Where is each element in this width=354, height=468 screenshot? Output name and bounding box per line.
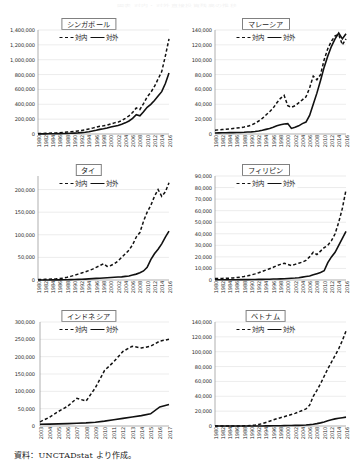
legend-item-inward: 対内 <box>236 33 264 42</box>
x-axis-labels: 1980198219841986198819901992199419961998… <box>38 135 169 161</box>
y-axis-tick-label: 120,000 <box>192 42 212 48</box>
x-axis-tick-label: 2008 <box>137 281 143 293</box>
x-axis-tick-label: 1990 <box>72 135 78 147</box>
x-axis-tick-label: 2012 <box>329 281 335 293</box>
x-axis-tick-label: 1982 <box>220 427 226 439</box>
y-axis-tick-label: 50,000 <box>195 219 212 225</box>
x-axis-tick-label: 1998 <box>101 135 107 147</box>
series-line-outward <box>40 405 169 425</box>
chart-grid: シンガポール対内対外0200,000400,000600,000800,0001… <box>0 14 354 446</box>
legend-label-inward: 対内 <box>252 325 264 334</box>
x-axis-tick-label: 2014 <box>139 427 145 439</box>
x-axis-tick-label: 2012 <box>152 135 158 147</box>
y-axis-tick-label: 40,000 <box>195 101 212 107</box>
y-axis-tick-label: 50,000 <box>18 254 35 260</box>
legend-swatch-dashed-icon <box>236 183 250 184</box>
chart-panel-philippines: フィリピン対内対外010,00020,00030,00040,00050,000… <box>177 160 354 306</box>
x-axis-tick-label: 1988 <box>65 135 71 147</box>
x-axis-tick-label: 1984 <box>227 135 233 147</box>
x-axis-tick-label: 1996 <box>271 427 277 439</box>
plot-area <box>38 176 169 280</box>
x-axis-tick-label: 2008 <box>314 427 320 439</box>
x-axis-tick-label: 1986 <box>234 427 240 439</box>
y-axis-tick-label: 800,000 <box>15 72 35 78</box>
x-axis-tick-label: 2015 <box>148 427 154 439</box>
x-axis-tick-label: 1992 <box>256 135 262 147</box>
y-axis-labels: 050,000100,000150,000200,000250,000300,0… <box>0 322 37 426</box>
x-axis-tick-label: 2010 <box>322 135 328 147</box>
x-axis-tick-label: 2008 <box>314 281 320 293</box>
x-axis-tick-label: 2006 <box>307 135 313 147</box>
x-axis-tick-label: 1982 <box>43 135 49 147</box>
x-axis-tick-label: 1986 <box>57 281 63 293</box>
y-axis-tick-label: 0 <box>209 423 212 429</box>
y-axis-tick-label: 80,000 <box>195 364 212 370</box>
x-axis-tick-label: 1988 <box>65 281 71 293</box>
x-axis-tick-label: 1980 <box>213 427 219 439</box>
x-axis-tick-label: 1984 <box>227 427 233 439</box>
legend-swatch-solid-icon <box>90 37 104 38</box>
x-axis-tick-label: 1994 <box>86 135 92 147</box>
x-axis-tick-label: 2010 <box>145 281 151 293</box>
chart-legend: 対内対外 <box>57 33 120 42</box>
legend-label-inward: 対内 <box>252 179 264 188</box>
chart-title: フィリピン <box>242 164 290 176</box>
x-axis-tick-label: 2002 <box>293 135 299 147</box>
y-axis-tick-label: 0 <box>32 277 35 283</box>
x-axis-tick-label: 1980 <box>213 281 219 293</box>
legend-item-inward: 対内 <box>236 325 264 334</box>
x-axis-tick-label: 1998 <box>278 427 284 439</box>
cut-off-header-text: 図表 対内・対外直接投資残高の推移 <box>117 2 238 8</box>
x-axis-tick-label: 1994 <box>86 281 92 293</box>
y-axis-tick-label: 250,000 <box>15 336 35 342</box>
y-axis-tick-label: 200,000 <box>15 187 35 193</box>
y-axis-tick-label: 10,000 <box>195 265 212 271</box>
legend-swatch-dashed-icon <box>236 329 250 330</box>
y-axis-tick-label: 40,000 <box>195 231 212 237</box>
x-axis-tick-label: 1982 <box>220 135 226 147</box>
x-axis-tick-label: 1988 <box>242 281 248 293</box>
y-axis-labels: 020,00040,00060,00080,000100,000120,0001… <box>177 322 214 426</box>
x-axis-tick-label: 1980 <box>36 281 42 293</box>
y-axis-tick-label: 100,000 <box>192 349 212 355</box>
y-axis-labels: 020,00040,00060,00080,000100,000120,0001… <box>177 30 214 134</box>
x-axis-tick-label: 1984 <box>50 281 56 293</box>
y-axis-tick-label: 1,400,000 <box>10 27 35 33</box>
x-axis-labels: 1980198219841986198819901992199419961998… <box>215 281 346 307</box>
legend-label-outward: 対外 <box>106 179 118 188</box>
plot-area <box>215 322 346 426</box>
y-axis-tick-label: 0 <box>209 131 212 137</box>
legend-label-outward: 対外 <box>106 33 118 42</box>
x-axis-tick-label: 1990 <box>249 281 255 293</box>
y-axis-tick-label: 200,000 <box>15 116 35 122</box>
plot-area <box>40 322 169 426</box>
legend-swatch-solid-icon <box>267 183 281 184</box>
y-axis-tick-label: 150,000 <box>15 371 35 377</box>
chart-legend: 対内対外 <box>234 33 297 42</box>
legend-swatch-solid-icon <box>267 329 281 330</box>
y-axis-tick-label: 400,000 <box>15 101 35 107</box>
x-axis-tick-label: 2006 <box>130 281 136 293</box>
x-axis-tick-label: 1998 <box>278 281 284 293</box>
x-axis-tick-label: 1984 <box>50 135 56 147</box>
y-axis-tick-label: 100,000 <box>192 57 212 63</box>
x-axis-tick-label: 2016 <box>344 281 350 293</box>
x-axis-tick-label: 2004 <box>300 427 306 439</box>
legend-item-inward: 対内 <box>59 179 87 188</box>
chart-panel-singapore: シンガポール対内対外0200,000400,000600,000800,0001… <box>0 14 177 160</box>
series-line-outward <box>38 231 169 280</box>
x-axis-tick-label: 1990 <box>249 135 255 147</box>
y-axis-tick-label: 20,000 <box>195 408 212 414</box>
x-axis-tick-label: 2004 <box>47 427 53 439</box>
x-axis-tick-label: 1982 <box>43 281 49 293</box>
legend-item-outward: 対外 <box>267 325 295 334</box>
legend-swatch-solid-icon <box>267 37 281 38</box>
x-axis-tick-label: 1990 <box>249 427 255 439</box>
x-axis-tick-label: 1996 <box>271 281 277 293</box>
x-axis-tick-label: 1982 <box>220 281 226 293</box>
x-axis-tick-label: 1996 <box>94 281 100 293</box>
x-axis-tick-label: 2008 <box>314 135 320 147</box>
x-axis-tick-label: 2010 <box>145 135 151 147</box>
x-axis-tick-label: 2004 <box>123 135 129 147</box>
plot-area <box>38 30 169 134</box>
